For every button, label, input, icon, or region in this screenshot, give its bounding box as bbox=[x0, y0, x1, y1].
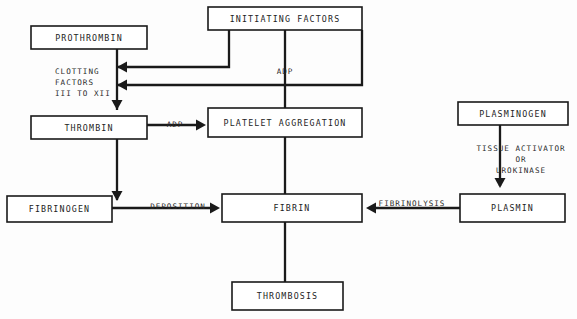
node-label-initiating_factors: INITIATING FACTORS bbox=[230, 14, 341, 24]
edge-label-adp-thrombin: ADP bbox=[167, 120, 184, 129]
arrowhead-icon bbox=[210, 203, 220, 214]
flowchart-canvas: PROTHROMBININITIATING FACTORSTHROMBINPLA… bbox=[0, 0, 577, 319]
node-fibrinogen[interactable]: FIBRINOGEN bbox=[7, 196, 112, 222]
node-platelet_aggregation[interactable]: PLATELET AGGREGATION bbox=[208, 108, 362, 137]
free-label-clotting-factors: CLOTTINGFACTORSIII TO XII bbox=[55, 67, 111, 98]
node-prothrombin[interactable]: PROTHROMBIN bbox=[31, 26, 147, 49]
edge-prothrombin-to-thrombin bbox=[112, 49, 123, 110]
node-label-platelet_aggregation: PLATELET AGGREGATION bbox=[224, 118, 347, 128]
free-label-line: CLOTTING bbox=[55, 67, 100, 76]
edge-label-adp-initiating: ADP bbox=[277, 67, 294, 76]
node-label-prothrombin: PROTHROMBIN bbox=[55, 33, 123, 43]
edges-layer bbox=[112, 30, 506, 282]
node-thrombin[interactable]: THROMBIN bbox=[31, 116, 147, 139]
node-initiating_factors[interactable]: INITIATING FACTORS bbox=[208, 7, 362, 30]
edge-label-fibrinolysis: FIBRINOLYSIS bbox=[379, 199, 446, 208]
free-label-tissue-activator: TISSUE ACTIVATORORUROKINASE bbox=[476, 144, 565, 175]
nodes-layer: PROTHROMBININITIATING FACTORSTHROMBINPLA… bbox=[7, 7, 568, 310]
node-label-fibrin: FIBRIN bbox=[274, 203, 311, 213]
edge-label-deposition: DEPOSITION bbox=[150, 202, 206, 211]
node-label-fibrinogen: FIBRINOGEN bbox=[29, 204, 90, 214]
node-label-thrombosis: THROMBOSIS bbox=[257, 291, 318, 301]
arrowhead-icon bbox=[112, 191, 123, 201]
arrowhead-icon bbox=[366, 203, 376, 214]
arrowhead-icon bbox=[196, 120, 206, 131]
node-thrombosis[interactable]: THROMBOSIS bbox=[232, 282, 343, 310]
edge-plasminogen-to-plasmin bbox=[495, 125, 506, 188]
node-label-thrombin: THROMBIN bbox=[64, 123, 113, 133]
edge-initiating-to-thrombin-path bbox=[117, 30, 362, 91]
arrowhead-icon bbox=[117, 62, 127, 73]
free-label-line: TISSUE ACTIVATOR bbox=[476, 144, 565, 153]
free-label-line: III TO XII bbox=[55, 89, 111, 98]
arrowhead-icon bbox=[112, 100, 123, 110]
node-label-plasmin: PLASMIN bbox=[491, 203, 534, 213]
arrowhead-icon bbox=[117, 80, 127, 91]
free-label-line: UROKINASE bbox=[496, 166, 546, 175]
edge-thrombin-to-deposition bbox=[112, 139, 123, 201]
node-label-plasminogen: PLASMINOGEN bbox=[479, 109, 547, 119]
node-fibrin[interactable]: FIBRIN bbox=[222, 194, 362, 222]
arrowhead-icon bbox=[495, 178, 506, 188]
free-label-line: OR bbox=[515, 155, 526, 164]
node-plasmin[interactable]: PLASMIN bbox=[460, 194, 565, 222]
free-label-line: FACTORS bbox=[55, 78, 94, 87]
coagulation-flowchart: PROTHROMBININITIATING FACTORSTHROMBINPLA… bbox=[0, 0, 577, 319]
node-plasminogen[interactable]: PLASMINOGEN bbox=[458, 102, 568, 125]
